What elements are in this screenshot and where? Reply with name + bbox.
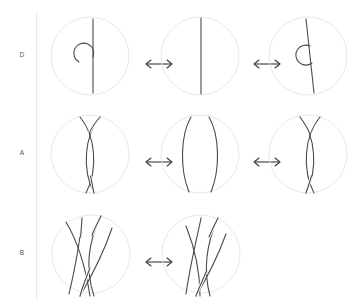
row-a: A: [0, 108, 359, 200]
row-label-a: A: [14, 150, 30, 157]
panel-a-3: [266, 110, 350, 194]
row-d: D: [0, 12, 359, 100]
row-label-d: D: [14, 52, 30, 59]
panel-a-2: [158, 110, 242, 194]
panel-d-2: [158, 14, 242, 98]
panel-d-1: [48, 14, 132, 98]
row-label-b: B: [14, 250, 30, 257]
panel-d-3: [266, 14, 350, 98]
row-b: B: [0, 206, 359, 302]
panel-a-1: [48, 110, 132, 194]
panel-b-2: [156, 208, 246, 300]
reidemeister-moves-figure: D: [0, 0, 359, 308]
panel-b-1: [46, 208, 136, 300]
